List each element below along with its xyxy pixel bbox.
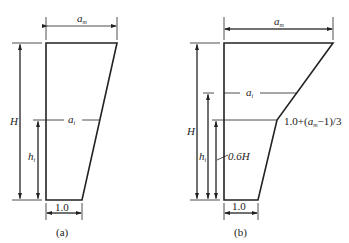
b-H-label: H (186, 125, 196, 137)
knee-height-label: 0.6H (228, 150, 251, 162)
h-i-label: hi (28, 150, 36, 163)
amplification-factor-diagram: am H ai hi 1.0 (a) (0, 0, 349, 243)
figure-a-outline (46, 43, 117, 200)
b-a-i-label: ai (246, 86, 254, 99)
figure-a: am H ai hi 1.0 (a) (9, 12, 117, 239)
b-h-i-label: hi (199, 150, 207, 163)
bottom-width-label: 1.0 (55, 201, 69, 213)
b-bottom-width-label: 1.0 (232, 200, 246, 212)
a-m-label: am (77, 12, 88, 25)
b-a-m-label: am (274, 15, 285, 28)
caption-a: (a) (56, 226, 69, 239)
figure-b: am H ai hi 0.6H 1.0+(am−1)/3 (186, 15, 342, 239)
caption-b: (b) (234, 226, 247, 239)
H-label: H (9, 115, 19, 127)
knee-width-label: 1.0+(am−1)/3 (284, 115, 342, 128)
knee-height-leader (217, 155, 228, 160)
a-i-label: ai (68, 113, 76, 126)
